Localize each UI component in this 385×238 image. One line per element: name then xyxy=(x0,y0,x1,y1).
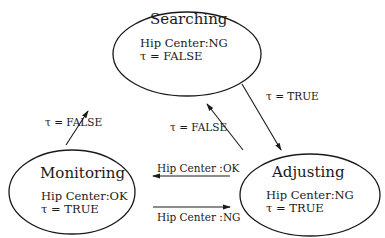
state-searching-title: Searching xyxy=(150,10,227,28)
transition-label-monitoring-to-searching: τ = FALSE xyxy=(45,116,102,128)
state-monitoring-tau: τ = TRUE xyxy=(41,203,99,216)
transition-label-monitoring-to-adjusting: Hip Center :NG xyxy=(157,211,241,223)
state-monitoring-title: Monitoring xyxy=(40,164,125,182)
transition-label-adjusting-to-monitoring: Hip Center :OK xyxy=(157,162,239,174)
transition-label-adjusting-to-searching: τ = FALSE xyxy=(170,121,227,133)
state-searching-tau: τ = FALSE xyxy=(140,50,203,63)
transition-label-searching-to-adjusting: τ = TRUE xyxy=(266,90,319,102)
state-adjusting-title: Adjusting xyxy=(272,163,345,181)
state-adjusting-tau: τ = TRUE xyxy=(266,202,324,215)
